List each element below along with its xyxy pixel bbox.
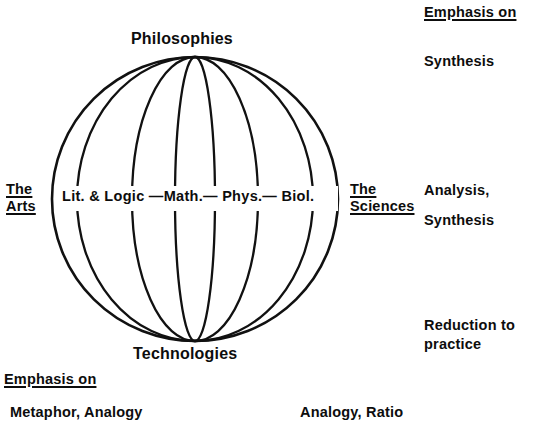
- annotation-bottom-analogy-ratio: Analogy, Ratio: [300, 404, 403, 420]
- side-label-the-sciences-line1: The: [350, 181, 414, 198]
- annotation-right-synthesis-top: Synthesis: [424, 53, 494, 69]
- annotation-right-analysis: Analysis,: [424, 182, 489, 198]
- pole-label-philosophies: Philosophies: [131, 30, 233, 48]
- annotation-right-synthesis-middle: Synthesis: [424, 212, 494, 228]
- side-label-the-arts-line1: The: [6, 181, 36, 198]
- annotation-right-reduction-to-practice: Reduction to practice: [424, 316, 534, 354]
- annotation-bottom-emphasis-heading: Emphasis on: [4, 371, 96, 387]
- side-label-the-arts: The Arts: [6, 181, 36, 215]
- equator-axis-label: Lit. & Logic —Math.— Phys.— Biol.: [62, 188, 314, 204]
- pole-label-technologies: Technologies: [133, 345, 237, 363]
- side-label-the-arts-line2: Arts: [6, 198, 36, 215]
- side-label-the-sciences-line2: Sciences: [350, 198, 414, 215]
- side-label-the-sciences: The Sciences: [350, 181, 414, 215]
- annotation-right-emphasis-heading: Emphasis on: [424, 4, 516, 20]
- annotation-bottom-metaphor-analogy: Metaphor, Analogy: [10, 404, 143, 420]
